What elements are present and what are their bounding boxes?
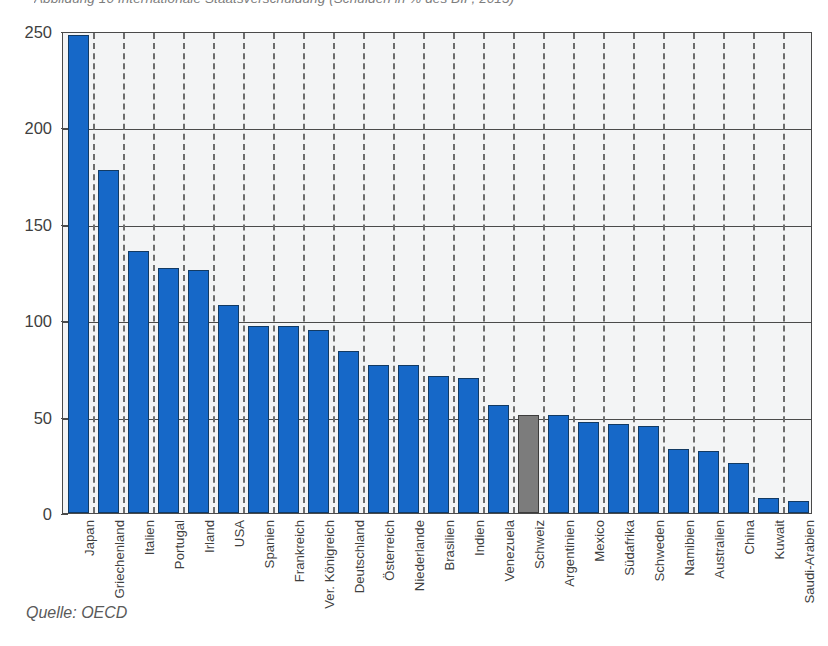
- category-separator: [603, 33, 605, 513]
- bar-sterreich: [368, 365, 389, 513]
- bar-deutschland: [338, 351, 359, 513]
- x-tick-label-brasilien: Brasilien: [442, 520, 457, 571]
- category-separator: [423, 33, 425, 513]
- category-separator: [453, 33, 455, 513]
- category-separator: [633, 33, 635, 513]
- category-separator: [243, 33, 245, 513]
- y-tick-label-150: 150: [0, 215, 52, 234]
- plot-area: [62, 32, 812, 514]
- y-tick-mark-100: [61, 321, 68, 322]
- y-tick-mark-0: [61, 514, 68, 515]
- category-separator: [183, 33, 185, 513]
- bar-namibien: [668, 449, 689, 513]
- category-separator: [513, 33, 515, 513]
- category-separator: [753, 33, 755, 513]
- category-separator: [573, 33, 575, 513]
- category-separator: [693, 33, 695, 513]
- bar-argentinien: [548, 415, 569, 513]
- x-tick-label-italien: Italien: [142, 520, 157, 555]
- bar-portugal: [158, 268, 179, 513]
- x-tick-label-ver-k-nigreich: Ver. Königreich: [322, 520, 337, 609]
- category-separator: [363, 33, 365, 513]
- gridline-y-150: [63, 226, 811, 227]
- bar-schweden: [638, 426, 659, 513]
- bar-japan: [68, 35, 89, 513]
- bar-venezuela: [488, 405, 509, 513]
- x-tick-label-usa: USA: [232, 520, 247, 547]
- plot-inner: [63, 33, 811, 513]
- chart-figure: Abbildung 10 Internationale Staatsversch…: [0, 0, 828, 646]
- bar-kuwait: [758, 498, 779, 513]
- x-tick-label-australien: Australien: [712, 520, 727, 579]
- x-tick-label-niederlande: Niederlande: [412, 520, 427, 591]
- x-tick-label-mexico: Mexico: [592, 520, 607, 562]
- x-tick-label-argentinien: Argentinien: [562, 520, 577, 587]
- bar-s-dafrika: [608, 424, 629, 513]
- category-separator: [273, 33, 275, 513]
- category-separator: [213, 33, 215, 513]
- bar-schweiz: [518, 415, 539, 513]
- x-tick-label-s-dafrika: Südafrika: [622, 520, 637, 576]
- bar-china: [728, 463, 749, 513]
- category-separator: [303, 33, 305, 513]
- category-separator: [723, 33, 725, 513]
- category-separator: [483, 33, 485, 513]
- category-separator: [543, 33, 545, 513]
- bar-frankreich: [278, 326, 299, 513]
- x-tick-label-namibien: Namibien: [682, 520, 697, 576]
- x-tick-label-schweden: Schweden: [652, 520, 667, 582]
- y-tick-label-250: 250: [0, 23, 52, 42]
- x-tick-label-schweiz: Schweiz: [532, 520, 547, 569]
- y-tick-mark-50: [61, 418, 68, 419]
- y-tick-label-0: 0: [0, 505, 52, 524]
- x-tick-label-venezuela: Venezuela: [502, 520, 517, 582]
- bar-italien: [128, 251, 149, 513]
- x-tick-label-griechenland: Griechenland: [112, 520, 127, 598]
- figure-title: Abbildung 10 Internationale Staatsversch…: [34, 0, 814, 9]
- x-tick-label-portugal: Portugal: [172, 520, 187, 569]
- gridline-y-200: [63, 129, 811, 130]
- x-tick-label-deutschland: Deutschland: [352, 520, 367, 593]
- y-tick-mark-250: [61, 32, 68, 33]
- bar-mexico: [578, 422, 599, 513]
- source-note: Quelle: OECD: [26, 604, 127, 622]
- category-separator: [123, 33, 125, 513]
- bar-usa: [218, 305, 239, 513]
- bar-irland: [188, 270, 209, 513]
- bar-griechenland: [98, 170, 119, 513]
- y-tick-label-200: 200: [0, 119, 52, 138]
- x-tick-label-china: China: [742, 520, 757, 554]
- x-tick-label-frankreich: Frankreich: [292, 520, 307, 582]
- x-tick-label-sterreich: Österreich: [382, 520, 397, 581]
- category-separator: [333, 33, 335, 513]
- y-tick-label-100: 100: [0, 312, 52, 331]
- category-separator: [93, 33, 95, 513]
- bar-indien: [458, 378, 479, 513]
- y-tick-mark-150: [61, 225, 68, 226]
- category-separator: [783, 33, 785, 513]
- bar-niederlande: [398, 365, 419, 513]
- bar-ver-k-nigreich: [308, 330, 329, 513]
- category-separator: [393, 33, 395, 513]
- category-separator: [663, 33, 665, 513]
- x-tick-label-spanien: Spanien: [262, 520, 277, 568]
- y-tick-label-50: 50: [0, 408, 52, 427]
- y-tick-mark-200: [61, 128, 68, 129]
- bar-spanien: [248, 326, 269, 513]
- bar-saudi-arabien: [788, 501, 809, 513]
- bar-australien: [698, 451, 719, 513]
- x-tick-label-kuwait: Kuwait: [772, 520, 787, 560]
- category-separator: [153, 33, 155, 513]
- bar-brasilien: [428, 376, 449, 513]
- x-tick-label-japan: Japan: [82, 520, 97, 556]
- x-tick-label-indien: Indien: [472, 520, 487, 556]
- x-tick-label-irland: Irland: [202, 520, 217, 553]
- x-tick-label-saudi-arabien: Saudi-Arabien: [802, 520, 817, 604]
